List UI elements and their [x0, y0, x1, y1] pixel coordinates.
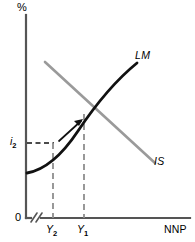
- x-axis-title: NNP: [164, 224, 187, 235]
- x-tick-label-y2-main: Y: [46, 223, 53, 235]
- x-tick-label-y1-main: Y: [77, 223, 84, 235]
- y-axis-title: %: [17, 2, 27, 13]
- lm-curve-label: LM: [135, 50, 150, 61]
- x-tick-label-y1: Y1: [77, 224, 88, 238]
- y-tick-label-i2: i2: [10, 136, 17, 150]
- is-curve: [45, 62, 155, 163]
- x-tick-label-y1-sub: 1: [84, 229, 88, 238]
- origin-label: 0: [15, 212, 21, 223]
- is-lm-chart-figure: % NNP 0 LM IS i2 Y2 Y1: [0, 0, 195, 242]
- x-tick-label-y2-sub: 2: [53, 229, 57, 238]
- x-tick-label-y2: Y2: [46, 224, 57, 238]
- chart-canvas: [0, 0, 195, 242]
- y-tick-label-i2-sub: 2: [12, 141, 16, 150]
- lm-curve: [27, 63, 137, 173]
- is-curve-label: IS: [154, 156, 165, 167]
